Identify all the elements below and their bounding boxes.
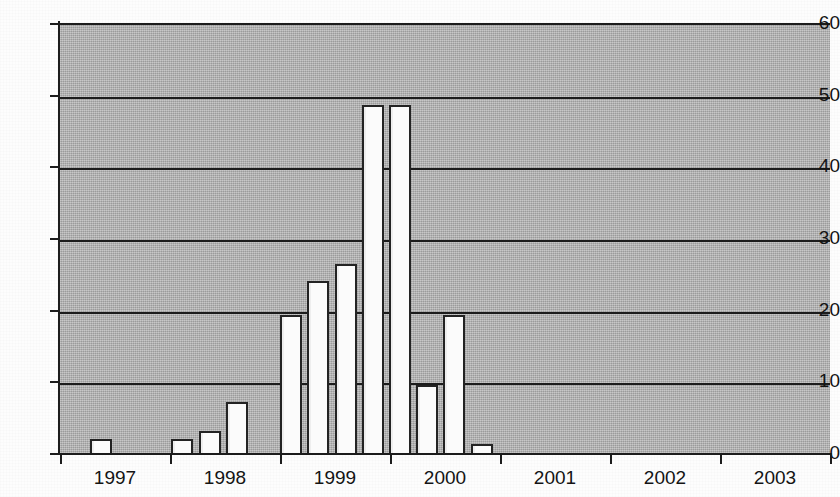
x-tick-label: 1999 (280, 468, 390, 487)
x-tick-label: 2002 (610, 468, 720, 487)
y-tick-label: 20 (796, 300, 840, 319)
y-tick-mark (50, 453, 59, 455)
y-tick-label: 40 (796, 156, 840, 175)
x-tick-mark (390, 453, 392, 464)
bar (226, 402, 248, 455)
bar (307, 281, 329, 455)
y-tick-mark (50, 95, 59, 97)
bar (443, 315, 465, 455)
y-tick-label: 30 (796, 228, 840, 247)
gridline (60, 168, 830, 170)
bar (199, 431, 221, 455)
bar (280, 315, 302, 455)
x-tick-label: 1998 (170, 468, 280, 487)
plot-area (60, 23, 830, 455)
bar (362, 105, 384, 455)
gridline (60, 312, 830, 314)
x-tick-mark (170, 453, 172, 464)
bar (389, 105, 411, 455)
y-tick-mark (50, 310, 59, 312)
bar (416, 385, 438, 455)
x-tick-label: 2003 (720, 468, 830, 487)
y-tick-mark (50, 23, 59, 25)
gridline (60, 97, 830, 99)
bar-chart: 6050403020100 19971998199920002001200220… (0, 0, 840, 497)
y-tick-label: 50 (796, 85, 840, 104)
y-tick-mark (50, 166, 59, 168)
gridline (60, 240, 830, 242)
y-tick-label: 0 (796, 443, 840, 462)
x-tick-mark (500, 453, 502, 464)
x-tick-label: 1997 (60, 468, 170, 487)
x-tick-mark (60, 453, 62, 464)
x-axis-line (58, 453, 832, 455)
x-tick-label: 2000 (390, 468, 500, 487)
y-tick-mark (50, 238, 59, 240)
y-tick-label: 10 (796, 371, 840, 390)
x-tick-mark (280, 453, 282, 464)
x-tick-label: 2001 (500, 468, 610, 487)
x-tick-mark (830, 453, 832, 464)
y-tick-label: 60 (796, 13, 840, 32)
x-tick-mark (720, 453, 722, 464)
y-tick-mark (50, 381, 59, 383)
bar (335, 264, 357, 455)
x-tick-mark (610, 453, 612, 464)
